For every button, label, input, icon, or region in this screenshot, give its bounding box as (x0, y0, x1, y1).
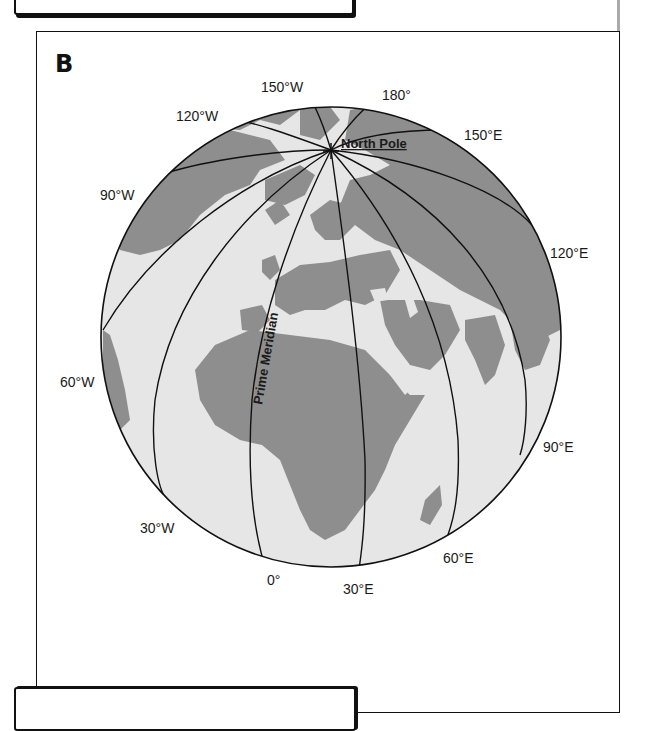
label-120W: 120°W (176, 108, 219, 124)
label-60W: 60°W (60, 374, 95, 390)
label-90W: 90°W (100, 187, 135, 203)
label-150E: 150°E (464, 127, 502, 143)
label-120E: 120°E (550, 245, 588, 261)
label-0: 0° (267, 572, 280, 588)
label-60E: 60°E (443, 550, 474, 566)
label-30W: 30°W (140, 520, 175, 536)
label-30E: 30°E (343, 581, 374, 597)
label-180: 180° (382, 87, 411, 103)
label-150W: 150°W (261, 79, 304, 95)
north-pole-label: North Pole (341, 136, 407, 151)
label-90E: 90°E (543, 439, 574, 455)
